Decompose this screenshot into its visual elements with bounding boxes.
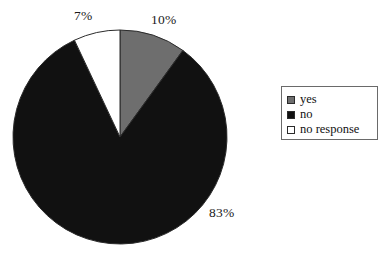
- legend-item-no: no: [287, 107, 377, 122]
- slice-label-no-response: 7%: [74, 8, 92, 24]
- legend-item-yes: yes: [287, 92, 377, 107]
- legend-label-no: no: [300, 107, 313, 122]
- legend-swatch-yes-icon: [287, 96, 295, 104]
- legend-label-yes: yes: [300, 92, 317, 107]
- legend-label-no-response: no response: [300, 122, 359, 137]
- slice-label-yes: 10%: [151, 12, 176, 28]
- pie-slices-group: [13, 30, 227, 244]
- legend-swatch-no-icon: [287, 111, 295, 119]
- chart-legend: yes no no response: [281, 86, 378, 140]
- pie-chart-figure: 7% 10% 83% yes no no response: [0, 0, 388, 255]
- legend-item-no-response: no response: [287, 122, 377, 137]
- slice-label-no: 83%: [209, 205, 234, 221]
- legend-swatch-no-response-icon: [287, 126, 295, 134]
